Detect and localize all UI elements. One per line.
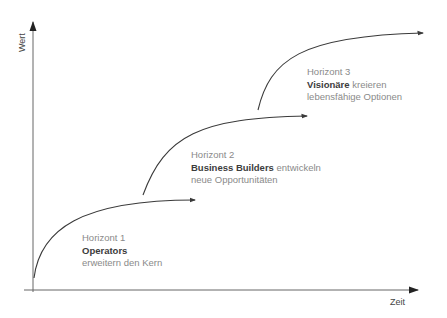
- horizon-3-label: Horizont 3 Visionäre kreieren lebensfähi…: [307, 66, 402, 104]
- y-axis-label: Wert: [17, 33, 27, 52]
- x-axis-label: Zeit: [390, 297, 405, 307]
- horizon-2-name: Business Builders: [191, 162, 274, 173]
- horizon-2-verb: entwickeln: [274, 162, 321, 173]
- horizon-3-verb: kreieren: [350, 79, 387, 90]
- horizon-1-description: erweitern den Kern: [82, 257, 162, 270]
- horizon-1-label: Horizont 1 Operators erweitern den Kern: [82, 232, 162, 270]
- horizon-3-description: lebensfähige Optionen: [307, 91, 402, 104]
- horizon-2-title: Horizont 2: [191, 149, 321, 162]
- horizon-1-name: Operators: [82, 245, 127, 256]
- horizon-2-description: neue Opportunitäten: [191, 174, 321, 187]
- horizon-2-label: Horizont 2 Business Builders entwickeln …: [191, 149, 321, 187]
- horizon-3-name: Visionäre: [307, 79, 350, 90]
- horizon-3-title: Horizont 3: [307, 66, 402, 79]
- horizon-1-title: Horizont 1: [82, 232, 162, 245]
